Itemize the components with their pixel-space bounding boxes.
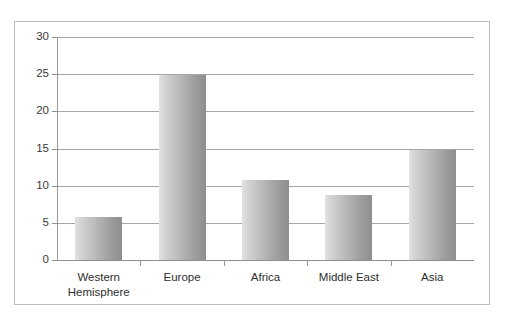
y-axis-tick: [52, 37, 58, 38]
x-axis-category-labels: WesternHemisphereEuropeAfricaMiddle East…: [57, 270, 474, 310]
y-axis-tick-label: 20: [19, 105, 49, 117]
bar: [242, 180, 289, 260]
x-axis-separator: [307, 260, 308, 266]
x-axis-label-line: Western: [77, 271, 120, 283]
bar: [159, 75, 206, 260]
x-axis-separator: [391, 260, 392, 266]
y-axis-tick-label: 10: [19, 180, 49, 192]
y-axis-tick-label: 0: [19, 254, 49, 266]
y-axis-tick-label: 30: [19, 31, 49, 43]
y-axis-tick: [52, 260, 58, 261]
x-axis-category-label: Middle East: [307, 270, 390, 285]
y-axis-tick: [52, 149, 58, 150]
y-axis-tick-label: 25: [19, 68, 49, 80]
x-axis-category-label: Asia: [391, 270, 474, 285]
gridline: [57, 74, 474, 75]
y-axis-tick-labels: 051015202530: [15, 22, 49, 306]
y-axis-tick-label: 5: [19, 217, 49, 229]
y-axis-tick: [52, 111, 58, 112]
bar: [75, 217, 122, 260]
y-axis-tick-label: 15: [19, 143, 49, 155]
bar: [409, 150, 456, 260]
x-axis-category-label: WesternHemisphere: [57, 270, 140, 299]
x-axis-label-line: Europe: [164, 271, 201, 283]
plot-area: [57, 37, 474, 260]
y-axis-tick: [52, 74, 58, 75]
clipped-header-text: cut off header text: [120, 0, 212, 1]
x-axis-label-line: Asia: [421, 271, 443, 283]
x-axis-category-label: Africa: [224, 270, 307, 285]
gridline: [57, 111, 474, 112]
clipped-header-sliver: cut off header text: [0, 0, 506, 9]
gridline: [57, 37, 474, 38]
chart-container: 051015202530 WesternHemisphereEuropeAfri…: [14, 21, 490, 305]
x-axis-separator: [140, 260, 141, 266]
x-axis-category-label: Europe: [140, 270, 223, 285]
x-axis-label-line: Hemisphere: [57, 285, 140, 300]
bar: [325, 195, 372, 260]
y-axis-tick: [52, 186, 58, 187]
y-axis-tick: [52, 223, 58, 224]
x-axis-label-line: Africa: [251, 271, 280, 283]
x-axis-separator: [224, 260, 225, 266]
x-axis-label-line: Middle East: [319, 271, 379, 283]
gridline: [57, 260, 474, 261]
